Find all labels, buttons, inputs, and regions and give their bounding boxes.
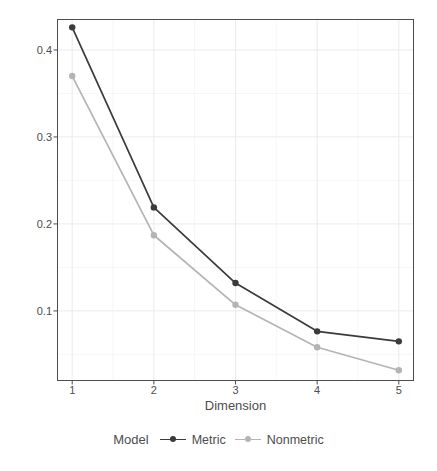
- data-point-metric-2: [151, 204, 157, 210]
- data-point-nonmetric-5: [396, 367, 402, 373]
- legend-key-icon: [160, 433, 186, 447]
- x-tick-label: 5: [384, 384, 414, 396]
- y-tick-label: 0.2: [18, 218, 52, 230]
- data-point-nonmetric-3: [232, 302, 238, 308]
- gridlines-group: [58, 20, 414, 381]
- x-tick-label: 3: [221, 384, 251, 396]
- legend-label: Nonmetric: [267, 433, 324, 447]
- data-point-metric-1: [69, 24, 75, 30]
- x-tick-label: 2: [139, 384, 169, 396]
- x-tick-label: 1: [57, 384, 87, 396]
- y-tick-label: 0.1: [18, 305, 52, 317]
- data-point-nonmetric-2: [151, 232, 157, 238]
- legend-item-nonmetric[interactable]: Nonmetric: [235, 433, 324, 447]
- x-axis-tick-labels: 12345: [0, 384, 437, 404]
- data-point-nonmetric-4: [314, 344, 320, 350]
- legend-item-metric[interactable]: Metric: [160, 433, 226, 447]
- legend-key-icon: [235, 433, 261, 447]
- data-point-metric-5: [396, 338, 402, 344]
- data-point-metric-3: [232, 280, 238, 286]
- y-tick-label: 0.3: [18, 131, 52, 143]
- data-point-metric-4: [314, 328, 320, 334]
- chart-legend: Model MetricNonmetric: [0, 432, 437, 447]
- y-axis-title: Stress: [0, 145, 1, 225]
- legend-title: Model: [113, 432, 148, 447]
- x-tick-label: 4: [302, 384, 332, 396]
- y-tick-label: 0.4: [18, 44, 52, 56]
- legend-label: Metric: [192, 433, 226, 447]
- chart-container: Stress Dimension 0.10.20.30.4 12345 Mode…: [0, 0, 437, 471]
- data-point-nonmetric-1: [69, 73, 75, 79]
